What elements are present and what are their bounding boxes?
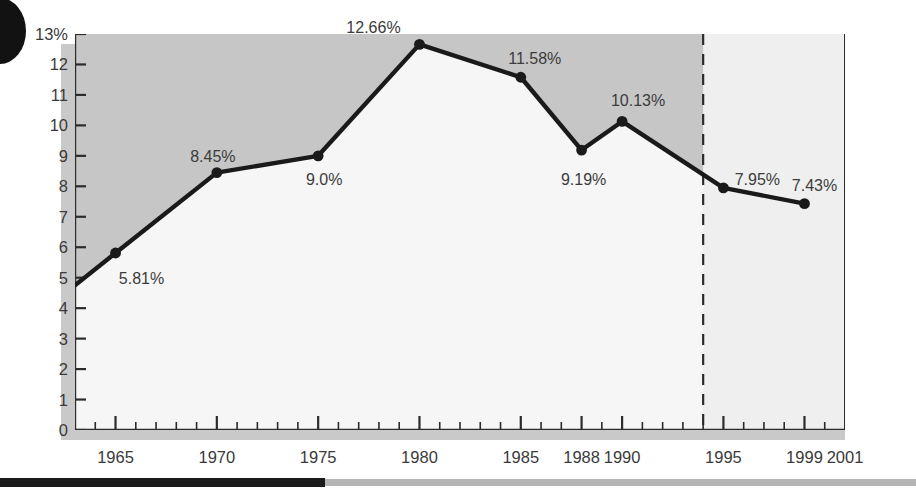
footer-rule	[0, 478, 916, 487]
data-point-label-1975: 9.0%	[306, 172, 342, 188]
x-tick-label-1980: 1980	[401, 449, 438, 466]
data-point-label-1970: 8.45%	[190, 149, 235, 165]
x-tick-label-1995: 1995	[705, 449, 742, 466]
x-tick-label-1970: 1970	[198, 449, 235, 466]
chart-figure: 13%1211109876543210 19651970197519801985…	[0, 0, 916, 496]
data-point-label-1965: 5.81%	[119, 271, 164, 287]
x-tick-label-1999: 1999	[786, 449, 823, 466]
data-point-label-1985: 11.58%	[508, 51, 561, 67]
x-tick-label-1988: 1988	[563, 449, 600, 466]
x-tick-label-1965: 1965	[97, 449, 134, 466]
footer-rule-light	[325, 479, 916, 486]
data-point-label-1988: 9.19%	[561, 172, 606, 188]
x-tick-label-1990: 1990	[604, 449, 641, 466]
x-tick-label-1985: 1985	[502, 449, 539, 466]
x-tick-label-2001: 2001	[827, 449, 864, 466]
x-tick-label-1975: 1975	[300, 449, 337, 466]
data-point-label-1999: 7.43%	[792, 178, 837, 194]
data-point-label-1995: 7.95%	[735, 172, 780, 188]
data-point-label-1990: 10.13%	[611, 93, 665, 109]
data-point-label-1980: 12.66%	[346, 20, 400, 36]
footer-rule-dark	[0, 478, 325, 487]
x-axis-tick-labels: 1965197019751980198519881990199519992001…	[0, 0, 916, 496]
